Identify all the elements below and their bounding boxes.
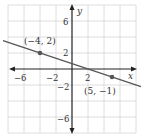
point-a-marker [38, 51, 43, 56]
y-axis-label: y [76, 6, 83, 16]
x-axis-label: x [128, 71, 133, 81]
x-tick-neg6: −6 [14, 73, 27, 83]
y-tick-neg6: −6 [57, 114, 70, 124]
point-a-label: (−4, 2) [24, 36, 56, 46]
x-axis-left-arrow-icon [9, 67, 15, 72]
y-tick-neg2: −2 [57, 82, 70, 92]
coordinate-graph: y x −6 −2 2 6 2 −2 −6 (−4, 2) (5, −1) [0, 0, 143, 138]
y-tick-2: 2 [63, 48, 68, 58]
point-b-label: (5, −1) [84, 86, 116, 96]
point-b-marker [110, 75, 115, 80]
y-tick-6: 6 [63, 17, 68, 27]
x-tick-2: 2 [85, 73, 90, 83]
axes [9, 4, 137, 134]
